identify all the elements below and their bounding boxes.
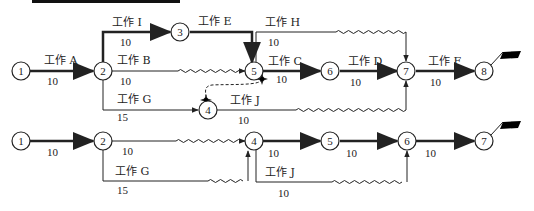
b-node-6: 6 <box>398 132 416 150</box>
b-node-1: 1 <box>12 132 30 150</box>
arrow-h-wave <box>336 31 406 34</box>
label-e: 工作 E <box>198 15 232 28</box>
b-duration-67: 10 <box>425 147 437 159</box>
label-f: 工作 F <box>428 55 461 68</box>
label-b: 工作 B <box>117 54 151 67</box>
node-7: 7 <box>397 62 415 80</box>
node-8: 8 <box>475 62 493 80</box>
b-duration-12: 10 <box>47 146 59 158</box>
label-j: 工作 J <box>230 94 260 107</box>
svg-text:6: 6 <box>404 135 410 147</box>
header-bar <box>32 0 180 3</box>
b-arrow-24-wave <box>176 140 241 143</box>
label-i: 工作 I <box>112 16 142 29</box>
b-duration-g: 15 <box>117 184 129 196</box>
network-diagram: 工作 A 10 工作 I 10 工作 E 工作 H 10 工作 B 10 工作 … <box>0 0 534 211</box>
svg-text:4: 4 <box>251 135 257 147</box>
duration-i: 10 <box>120 36 132 48</box>
b-arrow-j-wave <box>332 181 402 184</box>
arrow-e <box>190 32 252 62</box>
b-duration-24: 10 <box>122 145 134 157</box>
node-6: 6 <box>321 62 339 80</box>
svg-text:8: 8 <box>481 65 487 77</box>
svg-text:7: 7 <box>481 135 487 147</box>
b-label-j: 工作 J <box>265 166 295 179</box>
svg-text:2: 2 <box>100 65 106 77</box>
svg-text:1: 1 <box>18 65 24 77</box>
svg-text:6: 6 <box>327 65 333 77</box>
b-duration-j: 10 <box>278 187 290 199</box>
finish-flag-icon <box>491 51 521 65</box>
label-g: 工作 G <box>117 93 151 106</box>
duration-a: 10 <box>47 75 59 87</box>
b-duration-56: 10 <box>346 147 358 159</box>
node-1: 1 <box>12 62 30 80</box>
duration-f: 10 <box>430 76 442 88</box>
node-5: 5 <box>245 62 263 80</box>
svg-text:7: 7 <box>403 65 409 77</box>
duration-c: 10 <box>276 73 288 85</box>
b-node-7: 7 <box>475 132 493 150</box>
svg-text:1: 1 <box>18 135 24 147</box>
label-h: 工作 H <box>265 16 300 29</box>
arrow-j-wave <box>296 109 406 112</box>
node-4: 4 <box>199 101 217 119</box>
b-label-g: 工作 G <box>115 165 149 178</box>
node-3: 3 <box>171 23 189 41</box>
duration-j: 10 <box>238 114 250 126</box>
duration-b: 10 <box>120 75 132 87</box>
svg-text:3: 3 <box>177 26 183 38</box>
b-duration-45: 10 <box>268 147 280 159</box>
duration-g: 15 <box>117 111 129 123</box>
b-node-2: 2 <box>94 132 112 150</box>
duration-h: 10 <box>268 36 280 48</box>
node-2: 2 <box>94 62 112 80</box>
b-finish-flag-icon <box>491 121 521 135</box>
svg-text:2: 2 <box>100 135 106 147</box>
b-arrow-g-wave <box>208 180 243 183</box>
svg-text:5: 5 <box>327 135 333 147</box>
svg-text:4: 4 <box>205 104 211 116</box>
b-node-4: 4 <box>245 132 263 150</box>
label-d: 工作 D <box>348 55 382 68</box>
label-c: 工作 C <box>268 55 302 68</box>
b-node-5: 5 <box>321 132 339 150</box>
arrow-b-wave <box>178 70 243 73</box>
bottom-network: 10 10 工作 G 15 10 10 工作 J 10 10 1 2 4 5 6… <box>12 121 521 199</box>
svg-text:5: 5 <box>251 65 257 77</box>
top-network: 工作 A 10 工作 I 10 工作 E 工作 H 10 工作 B 10 工作 … <box>12 15 521 126</box>
duration-d: 10 <box>350 76 362 88</box>
label-a: 工作 A <box>44 54 78 67</box>
